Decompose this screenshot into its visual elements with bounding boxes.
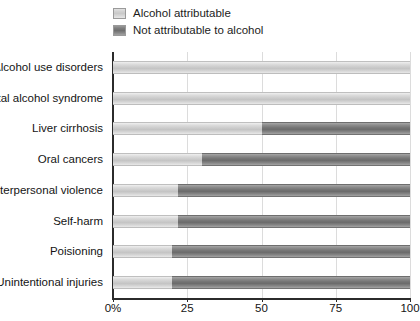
x-axis-tick-label: 50: [255, 302, 268, 315]
bar-segment[interactable]: [113, 122, 262, 135]
legend-swatch-not-attributable-icon: [113, 25, 126, 36]
x-axis-tick-label: 0%: [105, 302, 122, 315]
bar-segment[interactable]: [113, 276, 172, 289]
y-axis-tick-label: Liver cirrhosis: [32, 122, 103, 135]
gridline-100: [410, 52, 411, 298]
bar-segment[interactable]: [113, 153, 202, 166]
y-axis-tick-label: Interpersonal violence: [0, 184, 103, 197]
bar-row[interactable]: [113, 61, 410, 74]
x-axis-tick-label: 25: [181, 302, 194, 315]
bar-segment[interactable]: [172, 276, 410, 289]
chart-legend: Alcohol attributable Not attributable to…: [113, 5, 363, 39]
legend-label-alcohol-attributable: Alcohol attributable: [133, 7, 231, 20]
legend-swatch-attributable-icon: [113, 8, 126, 19]
y-axis-tick-label: Oral cancers: [38, 153, 103, 166]
bar-segment[interactable]: [113, 61, 410, 74]
legend-item-not-attributable: Not attributable to alcohol: [113, 22, 363, 39]
legend-item-alcohol-attributable: Alcohol attributable: [113, 5, 363, 22]
y-axis-labels: Alcohol use disordersFetal alcohol syndr…: [0, 52, 108, 298]
bar-segment[interactable]: [113, 215, 178, 228]
y-axis-tick-label: Unintentional injuries: [0, 276, 103, 289]
bar-segment[interactable]: [113, 184, 178, 197]
x-axis-labels: 0%255075100: [0, 302, 419, 318]
y-axis-tick-label: Fetal alcohol syndrome: [0, 92, 103, 105]
bar-row[interactable]: [113, 215, 410, 228]
bar-row[interactable]: [113, 184, 410, 197]
y-axis-tick-label: Alcohol use disorders: [0, 61, 103, 74]
bar-row[interactable]: [113, 276, 410, 289]
y-axis-line: [112, 52, 114, 298]
y-axis-tick-label: Poisioning: [50, 245, 103, 258]
bar-segment[interactable]: [113, 245, 172, 258]
gridline-50: [262, 52, 263, 298]
bar-segment[interactable]: [178, 184, 410, 197]
bar-segment[interactable]: [113, 92, 410, 105]
gridline-25: [187, 52, 188, 298]
y-axis-tick-label: Self-harm: [53, 215, 103, 228]
bar-row[interactable]: [113, 245, 410, 258]
bar-row[interactable]: [113, 122, 410, 135]
legend-label-not-attributable: Not attributable to alcohol: [133, 24, 263, 37]
x-axis-tick-label: 100: [400, 302, 419, 315]
bar-row[interactable]: [113, 92, 410, 105]
plot-area: [113, 52, 410, 298]
bar-row[interactable]: [113, 153, 410, 166]
x-axis-tick-label: 75: [329, 302, 342, 315]
bar-segment[interactable]: [202, 153, 410, 166]
bar-segment[interactable]: [178, 215, 410, 228]
bar-segment[interactable]: [262, 122, 411, 135]
bar-segment[interactable]: [172, 245, 410, 258]
gridline-75: [336, 52, 337, 298]
